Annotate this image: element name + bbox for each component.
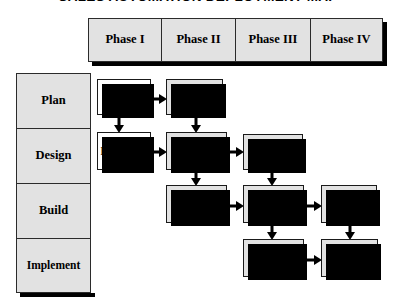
column-header-phase-2: Phase II [161,18,236,62]
page-title: SALES AUTOMATION DEPLOYMENT MAP [0,0,396,4]
process-node-specs[interactable]: Specs [243,134,303,170]
column-header-phase-1: Phase I [88,18,162,62]
process-node-functional-design[interactable]: Functional Design [166,185,227,223]
row-header-label: Design [35,149,71,163]
column-header-label: Phase IV [322,33,370,47]
column-header-phase-3: Phase III [235,18,311,62]
process-node-custom-program[interactable]: Custom Program [321,185,377,223]
column-header-label: Phase II [176,33,220,47]
row-header-label: Implement [27,259,81,271]
row-header-design: Design [16,128,91,184]
row-header-plan: Plan [16,73,91,129]
process-node-label: Specs [259,146,287,159]
row-header-build: Build [16,183,91,239]
column-header-label: Phase III [249,33,298,47]
arrow-beta-to-roll-out [305,254,322,266]
row-label-band: Plan Design Build Implement [16,73,91,293]
process-node-beta[interactable]: Beta [243,239,304,277]
process-node-roll-out[interactable]: Roll-out [321,239,378,277]
process-node-input[interactable]: Input [97,79,151,115]
process-node-software-hardware[interactable]: Software Hardware [243,185,304,223]
process-node-new-data-map[interactable]: New Data Map [166,132,227,170]
process-node-label: Roll-out [329,252,369,265]
row-header-label: Plan [41,94,65,108]
process-node-label: Functional Design [167,191,226,216]
process-node-label: New Data Map [167,138,226,163]
process-node-label: Data Map [100,145,148,158]
process-node-data-map[interactable]: Data Map [97,132,151,170]
header-band-shadow [92,62,387,66]
row-header-label: Build [39,204,68,218]
column-header-phase-4: Phase IV [310,18,383,62]
row-header-implement: Implement [16,238,91,293]
process-node-label: Input [111,91,136,104]
process-node-label: Concept [175,91,215,104]
process-node-label: Beta [263,252,285,265]
deployment-map-diagram: SALES AUTOMATION DEPLOYMENT MAP Phase I … [0,0,396,307]
phase-header-band: Phase I Phase II Phase III Phase IV [88,18,383,62]
row-label-band-shadow [20,293,95,297]
process-node-label: Custom Program [322,191,376,216]
process-node-concept[interactable]: Concept [166,79,223,115]
arrow-software-hardware-to-custom-program [305,200,322,212]
column-header-label: Phase I [105,33,144,47]
process-node-label: Software Hardware [244,191,303,216]
